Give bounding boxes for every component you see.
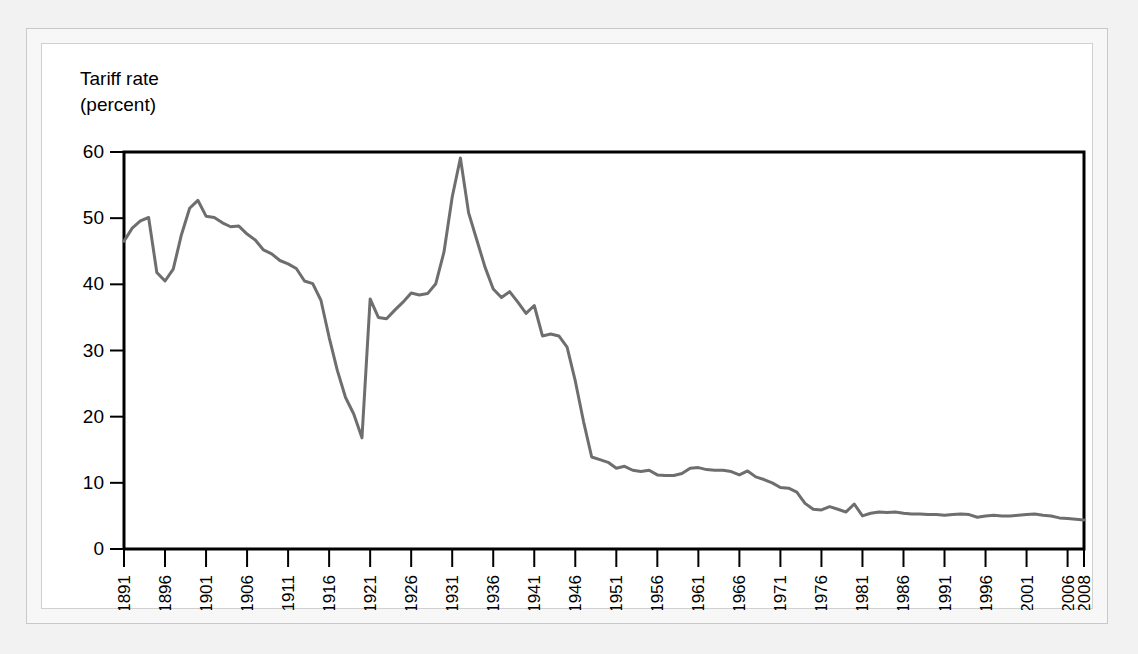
plot-area: 0102030405060189118961901190619111916192…: [42, 44, 1092, 608]
figure-root: Tariff rate(percent) 0102030405060189118…: [0, 0, 1138, 654]
x-tick-label: 1941: [525, 575, 544, 610]
plot-frame: [124, 152, 1084, 549]
x-tick-label: 1961: [689, 575, 708, 610]
series-line-tariff-rate: [124, 158, 1084, 520]
y-tick-label: 0: [93, 538, 104, 559]
x-tick-label: 1996: [977, 575, 996, 610]
figure-inner-panel: Tariff rate(percent) 0102030405060189118…: [41, 43, 1093, 609]
y-tick-label: 10: [83, 472, 104, 493]
y-tick-label: 20: [83, 406, 104, 427]
figure-outer-frame: Tariff rate(percent) 0102030405060189118…: [26, 28, 1108, 624]
line-chart-svg: 0102030405060189118961901190619111916192…: [42, 44, 1094, 610]
x-tick-label: 2001: [1018, 575, 1037, 610]
x-tick-label: 1946: [566, 575, 585, 610]
x-tick-label: 1931: [443, 575, 462, 610]
y-tick-label: 30: [83, 340, 104, 361]
x-tick-label: 1896: [156, 575, 175, 610]
x-tick-label: 1901: [197, 575, 216, 610]
x-tick-label: 1951: [607, 575, 626, 610]
x-tick-label: 1891: [115, 575, 134, 610]
y-tick-label: 40: [83, 273, 104, 294]
x-tick-label: 1916: [320, 575, 339, 610]
x-tick-label: 1981: [853, 575, 872, 610]
x-tick-label: 1976: [812, 575, 831, 610]
x-tick-label: 1966: [730, 575, 749, 610]
y-tick-label: 60: [83, 141, 104, 162]
x-tick-label: 1921: [361, 575, 380, 610]
x-tick-label: 1911: [279, 575, 298, 610]
x-tick-label: 1991: [936, 575, 955, 610]
x-tick-label: 1956: [648, 575, 667, 610]
x-tick-label: 1936: [484, 575, 503, 610]
x-tick-label: 1986: [894, 575, 913, 610]
x-tick-label: 1906: [238, 575, 257, 610]
x-tick-label: 1971: [771, 575, 790, 610]
x-tick-label: 1926: [402, 575, 421, 610]
y-tick-label: 50: [83, 207, 104, 228]
x-tick-label: 2008: [1075, 575, 1094, 610]
